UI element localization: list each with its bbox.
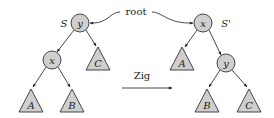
root-arrow-left — [90, 12, 120, 23]
subtree-c-label: C — [94, 58, 102, 69]
subtree-a-label: A — [177, 58, 185, 69]
zig-operation: Zig — [122, 70, 172, 88]
edge-x-a — [185, 30, 197, 47]
zig-rotation-diagram: root S y x C A B Zig S' x — [0, 0, 274, 118]
subtree-c-label: C — [245, 100, 253, 111]
edge-x-a — [33, 67, 46, 87]
edge-y-c — [86, 30, 96, 46]
edge-y-x — [57, 30, 74, 52]
edge-x-b — [58, 67, 70, 87]
node-x-label: x — [200, 18, 206, 29]
tree-label-s: S — [61, 18, 68, 29]
edge-y-b — [209, 70, 220, 87]
subtree-b-label: B — [67, 100, 75, 111]
root-pointer: root — [90, 6, 193, 23]
root-arrow-right — [152, 12, 193, 23]
tree-label-s-prime: S' — [221, 18, 231, 29]
zig-label: Zig — [134, 70, 151, 81]
tree-before: S y x C A B — [19, 14, 110, 112]
node-y-label: y — [222, 58, 229, 69]
subtree-a-label: A — [26, 100, 34, 111]
tree-after: S' x y A B C — [170, 14, 261, 112]
subtree-b-label: B — [202, 100, 210, 111]
node-x-label: x — [49, 55, 55, 66]
edge-x-y — [209, 30, 221, 55]
root-label: root — [126, 6, 147, 17]
edge-y-c — [232, 70, 247, 87]
node-y-label: y — [76, 18, 83, 29]
